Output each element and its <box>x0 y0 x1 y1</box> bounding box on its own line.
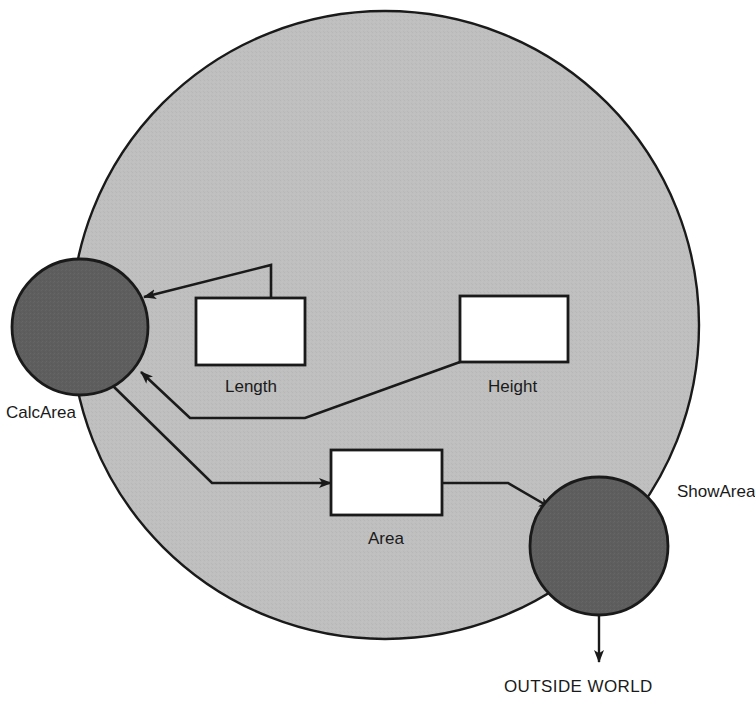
process-calc-area-texture <box>14 261 146 393</box>
label-calc-area: CalcArea <box>6 404 76 421</box>
label-show-area: ShowArea <box>677 483 755 500</box>
label-outside-world: OUTSIDE WORLD <box>504 678 653 695</box>
data-store-height[interactable] <box>460 296 568 362</box>
label-data-store-area: Area <box>368 530 404 547</box>
process-show-area-texture <box>532 479 666 613</box>
data-store-area[interactable] <box>331 450 442 515</box>
label-data-store-height: Height <box>488 378 537 395</box>
data-store-length[interactable] <box>196 298 305 365</box>
label-data-store-length: Length <box>225 378 277 395</box>
